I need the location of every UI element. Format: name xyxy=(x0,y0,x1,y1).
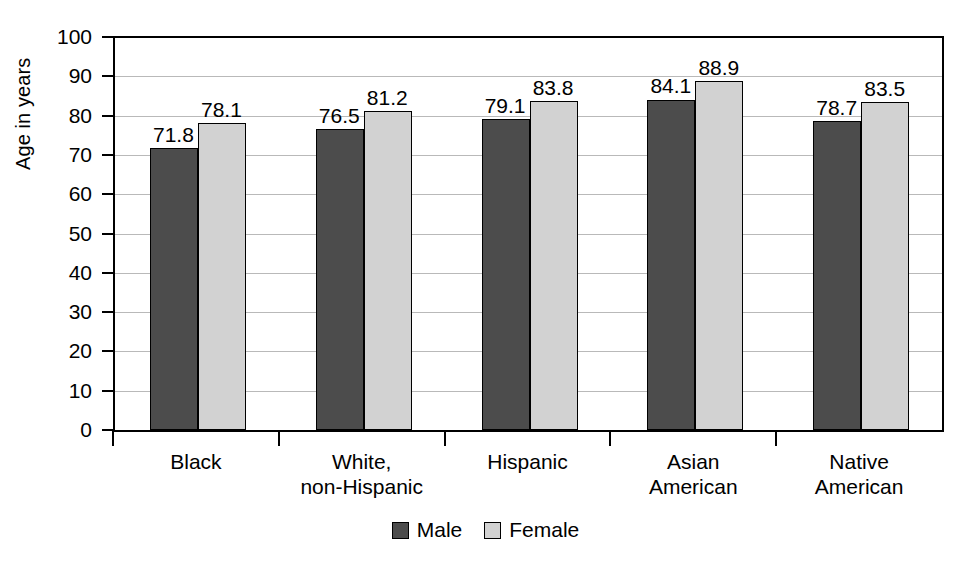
bar-female xyxy=(198,123,246,430)
x-axis-category-label: White,non-Hispanic xyxy=(279,449,445,499)
y-axis-tick-label: 80 xyxy=(32,105,92,126)
y-axis-tick xyxy=(102,390,113,392)
bar-value-label: 81.2 xyxy=(312,87,408,108)
bar-female xyxy=(364,111,412,430)
y-axis-tick-label: 20 xyxy=(32,340,92,361)
x-axis-category-label: NativeAmerican xyxy=(776,449,942,499)
plot-right-border xyxy=(942,36,944,432)
bar-chart: Age in years 1009080706050403020100 71.8… xyxy=(0,0,971,566)
x-axis-separator xyxy=(112,431,114,446)
bar-value-label: 88.9 xyxy=(643,57,739,78)
y-axis-tick xyxy=(102,115,113,117)
legend-swatch-male-icon xyxy=(392,522,409,539)
bar-female xyxy=(695,81,743,430)
x-axis-separator xyxy=(775,431,777,446)
x-axis-separator xyxy=(444,431,446,446)
bar-value-label: 83.5 xyxy=(809,78,905,99)
bar-value-label: 71.8 xyxy=(98,124,194,145)
bar-value-label: 78.7 xyxy=(761,97,857,118)
x-axis-separator xyxy=(278,431,280,446)
y-axis-tick xyxy=(102,36,113,38)
legend-item-male[interactable]: Male xyxy=(392,518,463,542)
x-axis-category-label: Black xyxy=(113,449,279,474)
x-axis-category-label: Hispanic xyxy=(445,449,611,474)
legend-label: Female xyxy=(509,518,579,542)
bar-male xyxy=(150,148,198,430)
y-axis-tick-label: 90 xyxy=(32,65,92,86)
x-axis-category-line: Hispanic xyxy=(487,450,568,473)
legend-swatch-female-icon xyxy=(484,522,501,539)
y-axis-tick-label: 50 xyxy=(32,223,92,244)
x-axis-separator xyxy=(609,431,611,446)
legend-label: Male xyxy=(417,518,463,542)
bar-value-label: 76.5 xyxy=(264,105,360,126)
bar-female xyxy=(530,101,578,430)
y-axis-tick-label: 10 xyxy=(32,380,92,401)
bar-male xyxy=(482,119,530,430)
y-axis-tick-label: 30 xyxy=(32,301,92,322)
bar-value-label: 78.1 xyxy=(146,99,242,120)
y-axis-tick-label: 40 xyxy=(32,262,92,283)
bar-value-label: 84.1 xyxy=(595,75,691,96)
y-axis-tick xyxy=(102,233,113,235)
bar-value-label: 79.1 xyxy=(430,95,526,116)
x-axis-category-line: Asian xyxy=(667,450,720,473)
bar-male xyxy=(647,100,695,431)
legend-item-female[interactable]: Female xyxy=(484,518,579,542)
bar-male xyxy=(316,129,364,430)
chart-legend: MaleFemale xyxy=(0,518,971,542)
y-axis-tick-label: 60 xyxy=(32,183,92,204)
y-axis-tick xyxy=(102,272,113,274)
x-axis-category-line: American xyxy=(610,474,776,499)
x-axis-category-line: White, xyxy=(332,450,392,473)
y-axis-tick xyxy=(102,193,113,195)
x-axis-category-line: Black xyxy=(170,450,221,473)
plot-top-border xyxy=(113,36,944,38)
bar-value-label: 83.8 xyxy=(478,77,574,98)
y-axis-tick-label: 100 xyxy=(32,26,92,47)
y-axis-tick xyxy=(102,75,113,77)
bar-female xyxy=(861,102,909,430)
x-axis-category-line: non-Hispanic xyxy=(279,474,445,499)
bar-male xyxy=(813,121,861,430)
y-axis-tick xyxy=(102,350,113,352)
x-axis-category-line: American xyxy=(776,474,942,499)
y-axis-tick-label: 70 xyxy=(32,144,92,165)
y-axis-tick xyxy=(102,311,113,313)
x-axis-category-line: Native xyxy=(829,450,889,473)
y-axis-tick xyxy=(102,154,113,156)
y-axis-tick-label: 0 xyxy=(32,419,92,440)
x-axis-category-label: AsianAmerican xyxy=(610,449,776,499)
